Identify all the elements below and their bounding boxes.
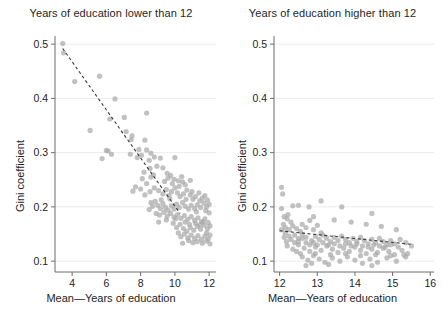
data-point	[366, 244, 371, 249]
data-point	[147, 158, 152, 163]
data-point	[136, 147, 141, 152]
data-point	[202, 193, 207, 198]
data-point	[394, 227, 399, 232]
data-point	[311, 227, 316, 232]
data-point	[307, 249, 312, 254]
data-point	[318, 248, 323, 253]
data-point	[307, 218, 312, 223]
x-tick-label: 12	[274, 277, 286, 289]
data-point	[309, 261, 314, 266]
data-point	[369, 263, 374, 268]
data-point	[282, 214, 287, 219]
data-point	[172, 155, 177, 160]
data-point	[129, 133, 134, 138]
data-point	[159, 197, 164, 202]
data-point	[315, 242, 320, 247]
data-point	[354, 241, 359, 246]
data-point	[112, 96, 117, 101]
data-point	[147, 189, 152, 194]
data-point	[165, 176, 170, 181]
data-point	[171, 221, 176, 226]
data-point	[156, 188, 161, 193]
y-tick-label: 0.2	[252, 201, 267, 213]
y-tick-label: 0.3	[33, 146, 48, 158]
data-point	[352, 257, 357, 262]
data-point	[97, 74, 102, 79]
data-point	[176, 230, 181, 235]
data-point	[349, 243, 354, 248]
data-point	[279, 185, 284, 190]
data-point	[184, 187, 189, 192]
data-point	[109, 152, 114, 157]
data-point	[360, 243, 365, 248]
y-tick-label: 0.2	[33, 201, 48, 213]
x-tick-label: 8	[138, 277, 144, 289]
data-point	[207, 210, 212, 215]
x-axis-label-right: Mean—Years of education	[222, 292, 443, 304]
data-point	[296, 203, 301, 208]
data-point	[298, 251, 303, 256]
data-point	[369, 211, 374, 216]
data-point	[349, 219, 354, 224]
data-point	[394, 259, 399, 264]
data-point	[144, 110, 149, 115]
data-point	[144, 181, 149, 186]
y-tick-label: 0.5	[33, 38, 48, 50]
data-point	[177, 184, 182, 189]
data-point	[280, 191, 285, 196]
data-point	[123, 129, 128, 134]
data-point	[300, 236, 305, 241]
data-point	[138, 186, 143, 191]
data-point	[360, 261, 365, 266]
data-point	[320, 240, 325, 245]
data-point	[330, 247, 335, 252]
data-point	[332, 241, 337, 246]
y-tick-label: 0.3	[252, 146, 267, 158]
data-point	[133, 184, 138, 189]
data-point	[152, 154, 157, 159]
data-point	[207, 241, 212, 246]
plot-area-right: 0.10.20.30.40.51213141516	[222, 0, 443, 320]
x-tick-label: 6	[103, 277, 109, 289]
data-point	[403, 240, 408, 245]
data-point	[364, 251, 369, 256]
x-axis-label-left: Mean—Years of education	[0, 292, 222, 304]
data-point	[186, 238, 191, 243]
data-point	[343, 241, 348, 246]
data-point	[388, 253, 393, 258]
data-point	[181, 226, 186, 231]
data-point	[88, 128, 93, 133]
data-point	[60, 41, 65, 46]
data-point	[201, 219, 206, 224]
plot-area-left: 0.10.20.30.40.54681012	[0, 0, 222, 320]
x-tick-label: 15	[387, 277, 399, 289]
data-point	[302, 246, 307, 251]
data-point	[72, 79, 77, 84]
data-point	[141, 170, 146, 175]
data-point	[337, 243, 342, 248]
data-point	[147, 207, 152, 212]
panel-education-higher-than-12: Years of education higher than 12 0.10.2…	[222, 0, 443, 320]
data-point	[157, 212, 162, 217]
data-point	[371, 242, 376, 247]
y-tick-label: 0.4	[33, 92, 48, 104]
panel-education-lower-than-12: Years of education lower than 12 0.10.20…	[0, 0, 222, 320]
data-point	[183, 182, 188, 187]
data-point	[194, 209, 199, 214]
data-point	[180, 241, 185, 246]
data-point	[148, 200, 153, 205]
data-point	[382, 244, 387, 249]
data-point	[326, 262, 331, 267]
data-point	[179, 174, 184, 179]
data-point	[311, 214, 316, 219]
figure-scatter-pair: Years of education lower than 12 0.10.20…	[0, 0, 443, 320]
y-axis-label-right: Gini coefficient	[236, 140, 248, 212]
data-point	[306, 204, 311, 209]
data-point	[375, 260, 380, 265]
data-point	[339, 204, 344, 209]
data-point	[303, 263, 308, 268]
data-point	[326, 242, 331, 247]
data-point	[388, 242, 393, 247]
data-point	[174, 225, 179, 230]
y-tick-label: 0.4	[252, 92, 267, 104]
